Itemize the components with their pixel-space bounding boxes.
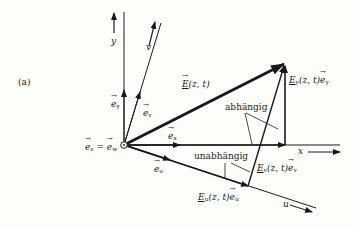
v-axis-label: v (146, 43, 151, 52)
e-y-label: ey (111, 100, 120, 109)
e-x-label: ex (168, 132, 177, 141)
e-v-component-label: Ev(z, t)ev (257, 164, 297, 173)
e-u-component-label: Eu(z, t)eu (198, 193, 239, 202)
e-u-label: eu (154, 165, 163, 174)
panel-label: (a) (18, 78, 30, 87)
vector-decomposition-diagram: (a) y v x u ey ev ex eu ez = ew E(z, t) … (0, 0, 359, 227)
diagram-lines (0, 0, 359, 227)
u-axis-label: u (283, 200, 289, 209)
y-axis-label: y (111, 37, 116, 46)
e-v-label: ev (143, 109, 152, 118)
unabhaengig-leader-1 (231, 163, 250, 172)
e-y-component-label: Ey(z, t)ey (289, 76, 329, 85)
independent-annotation: unabhängig (194, 152, 248, 161)
dependent-annotation: abhängig (225, 103, 268, 112)
x-axis-label: x (298, 147, 303, 156)
e-total-label: E(z, t) (182, 80, 210, 89)
abhaengig-leader-1 (246, 113, 278, 129)
abhaengig-leader-2 (245, 113, 252, 144)
e-z-equals-e-w-label: ez = ew (85, 143, 117, 152)
